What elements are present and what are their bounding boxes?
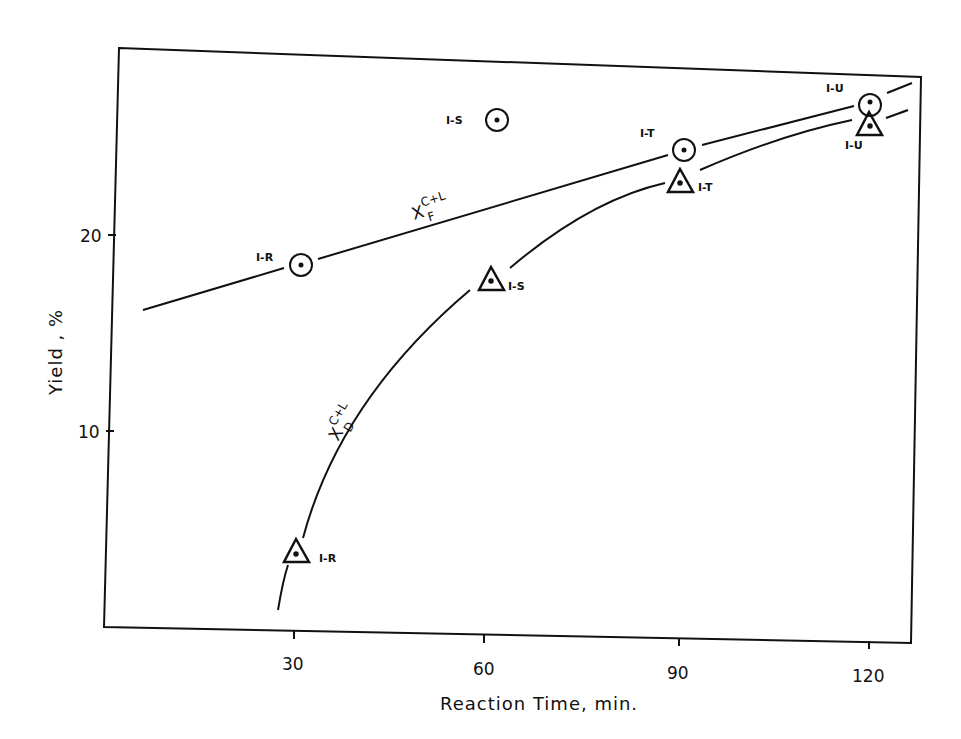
yield-vs-reaction-time-chart: 20 10 Yield , % 30 60 90 120 Reaction Ti… [0, 0, 961, 739]
y-tick-20: 20 [80, 226, 102, 246]
x-tick-30: 30 [282, 654, 304, 674]
triangle-point-ir [284, 539, 309, 562]
circle-point-ir [290, 254, 312, 276]
point-labels: I-R I-S I-T I-U I-R I-S I-T I-U [256, 82, 863, 565]
circle-point-it [673, 139, 695, 161]
svg-text:C+L: C+L [419, 188, 448, 209]
label-triangle-it: I-T [698, 181, 713, 194]
x-axis-title: Reaction Time, min. [440, 693, 638, 714]
label-circle-iu: I-U [826, 82, 844, 95]
series-xd-curve [278, 110, 908, 610]
label-triangle-iu: I-U [845, 139, 863, 152]
label-circle-it: I-T [640, 127, 655, 140]
plot-frame [104, 48, 921, 643]
y-axis-title: Yield , % [45, 309, 66, 396]
label-xf: X C+L F [408, 188, 453, 228]
svg-text:F: F [426, 209, 437, 224]
x-axis: 30 60 90 120 Reaction Time, min. [282, 631, 884, 714]
label-xd: X C+L D [320, 399, 365, 446]
triangle-point-it [668, 169, 693, 192]
triangle-point-is [479, 267, 504, 290]
y-tick-10: 10 [78, 422, 100, 442]
label-circle-ir: I-R [256, 251, 274, 264]
series-xf-line [143, 83, 912, 310]
label-circle-is: I-S [446, 114, 463, 127]
x-tick-120: 120 [852, 666, 884, 686]
x-tick-60: 60 [473, 659, 495, 679]
circle-point-is [486, 109, 508, 131]
x-tick-90: 90 [667, 663, 689, 683]
label-triangle-ir: I-R [319, 552, 337, 565]
label-triangle-is: I-S [508, 280, 525, 293]
y-axis: 20 10 Yield , % [45, 226, 116, 442]
